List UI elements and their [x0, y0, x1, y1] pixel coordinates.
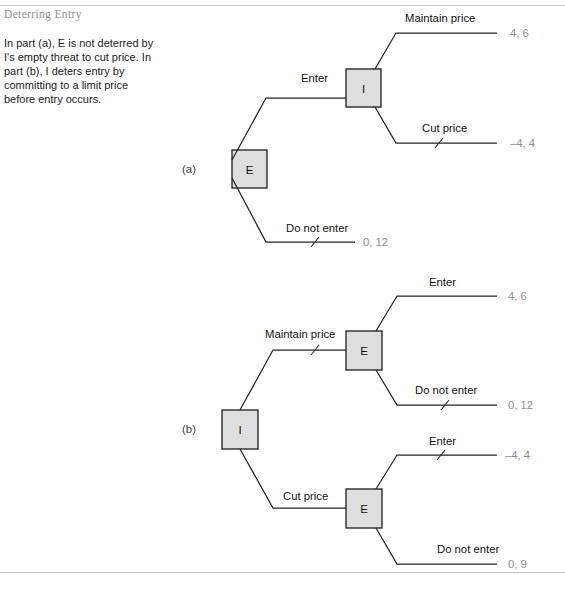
node-a-entrant-label: E — [246, 164, 254, 176]
part-a-label: (a) — [182, 163, 196, 175]
edge-b-maintain[interactable] — [240, 350, 346, 410]
edge-b-maintain-label: Maintain price — [265, 328, 335, 340]
edge-b-bottom-enter-label: Enter — [429, 435, 456, 447]
payoff-b-bottom-enter: –4, 4 — [505, 449, 530, 461]
game-tree-diagram: (a) E Enter I Maintain price 4, 6 Cut pr… — [0, 0, 565, 589]
edge-a-maintain-label: Maintain price — [405, 12, 475, 24]
payoff-b-top-do-not-enter: 0, 12 — [508, 399, 533, 411]
edge-b-bottom-enter[interactable] — [376, 455, 497, 489]
node-b-incumbent-label: I — [238, 424, 241, 436]
edge-a-cut-label: Cut price — [422, 122, 467, 134]
node-b-entrant-bottom-label: E — [360, 503, 368, 515]
part-b-label: (b) — [182, 423, 196, 435]
edge-b-cut-label: Cut price — [283, 490, 328, 502]
edge-b-top-enter-label: Enter — [429, 276, 456, 288]
payoff-a-cut: –4, 4 — [510, 137, 535, 149]
edge-a-enter-label: Enter — [301, 72, 328, 84]
edge-b-bottom-do-not-enter-label: Do not enter — [437, 543, 499, 555]
edge-a-do-not-enter-label: Do not enter — [286, 222, 348, 234]
node-b-entrant-top-label: E — [360, 345, 368, 357]
edge-b-top-do-not-enter-label: Do not enter — [415, 384, 477, 396]
payoff-a-maintain: 4, 6 — [510, 27, 529, 39]
edge-a-maintain[interactable] — [375, 33, 497, 69]
payoff-a-do-not-enter: 0, 12 — [363, 236, 388, 248]
payoff-b-bottom-do-not-enter: 0, 9 — [508, 558, 527, 570]
payoff-b-top-enter: 4, 6 — [508, 290, 527, 302]
part-a-group: (a) E Enter I Maintain price 4, 6 Cut pr… — [182, 12, 535, 248]
node-a-incumbent-label: I — [362, 83, 365, 95]
edge-b-top-enter[interactable] — [376, 296, 497, 331]
part-b-group: (b) I Maintain price E Enter 4, 6 Do not… — [182, 276, 533, 570]
